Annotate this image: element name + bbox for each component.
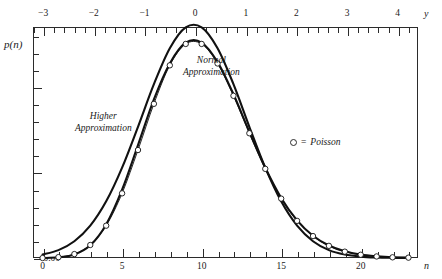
poisson-data-point	[406, 255, 411, 260]
poisson-data-point	[56, 254, 61, 259]
annotation-normal-approximation: Normal Approximation	[183, 54, 240, 78]
poisson-data-point	[88, 242, 93, 247]
poisson-data-point	[135, 147, 140, 152]
poisson-data-point	[294, 218, 299, 223]
poisson-data-point	[342, 249, 347, 254]
poisson-data-point	[103, 223, 108, 228]
annotation-higher-approximation: Higher Approximation	[75, 110, 132, 134]
poisson-data-point	[326, 243, 331, 248]
figure-poisson-normal-approximation: p(n) y n −3−2−101234 05101520 0.000.050.…	[0, 0, 442, 279]
annotation-normal-line1: Normal	[183, 54, 240, 66]
poisson-data-point	[358, 252, 363, 257]
poisson-data-point	[263, 166, 268, 171]
legend-label-poisson: Poisson	[310, 137, 340, 147]
legend: = Poisson	[290, 137, 340, 147]
open-circle-icon	[290, 139, 297, 146]
annotation-normal-line2: Approximation	[183, 66, 240, 78]
poisson-data-point	[167, 63, 172, 68]
legend-equals: =	[301, 137, 306, 147]
poisson-data-point	[247, 131, 252, 136]
annotation-higher-line2: Approximation	[75, 122, 132, 134]
chart-curves	[0, 0, 442, 279]
poisson-data-point	[199, 41, 204, 46]
poisson-data-point	[278, 196, 283, 201]
poisson-data-point	[151, 101, 156, 106]
poisson-data-point	[231, 93, 236, 98]
annotation-higher-line1: Higher	[75, 110, 132, 122]
poisson-data-point	[119, 191, 124, 196]
poisson-data-point	[390, 255, 395, 260]
poisson-data-point	[40, 255, 45, 260]
poisson-data-point	[183, 41, 188, 46]
poisson-data-point	[310, 233, 315, 238]
poisson-data-point	[72, 251, 77, 256]
poisson-data-point	[374, 254, 379, 259]
